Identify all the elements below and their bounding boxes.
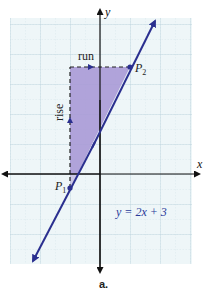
x-axis-label: x bbox=[196, 157, 203, 171]
coordinate-plane: y x run rise P2 P1 y = 2x + 3 bbox=[0, 0, 207, 292]
figure-caption: a. bbox=[0, 278, 207, 290]
point-p2 bbox=[127, 64, 132, 69]
grid bbox=[10, 18, 192, 264]
equation-label: y = 2x + 3 bbox=[115, 205, 167, 219]
rise-label: rise bbox=[52, 104, 66, 121]
y-axis-label: y bbox=[104, 5, 111, 19]
point-p1 bbox=[67, 185, 72, 190]
run-label: run bbox=[78, 49, 94, 63]
